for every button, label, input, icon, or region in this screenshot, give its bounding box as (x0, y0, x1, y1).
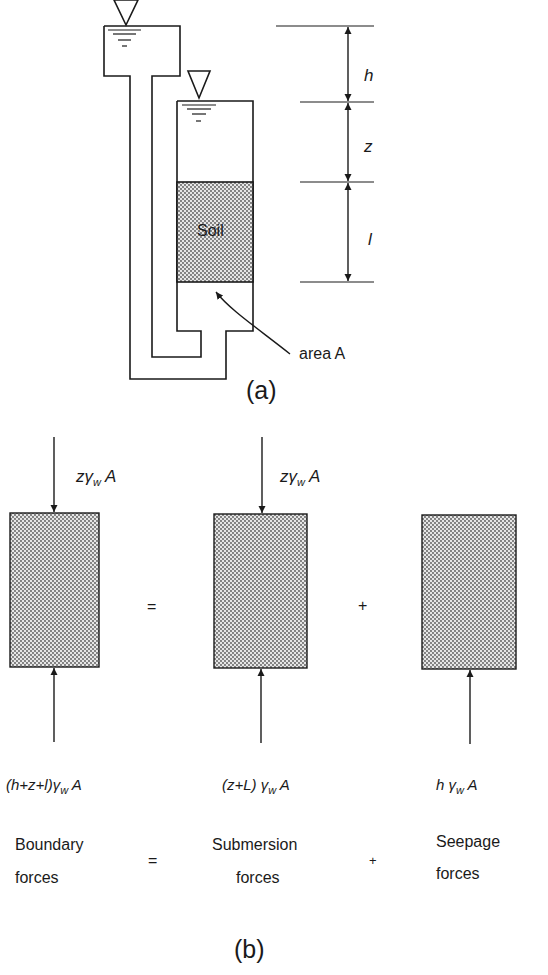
boundary-forces-line1: Boundary (15, 836, 84, 854)
top-force-boundary-sub: w (93, 476, 101, 488)
plus-operator-blocks: + (358, 597, 367, 615)
boundary-forces-line2: forces (15, 869, 59, 887)
top-force-boundary-tail: A (101, 467, 116, 486)
top-force-submersion: zγw A (280, 467, 320, 488)
top-force-boundary-main: zγ (76, 467, 93, 486)
top-force-submersion-tail: A (305, 467, 320, 486)
free-body-block-boundary (10, 513, 99, 667)
bottom-force-boundary-main: (h+z+l)γ (6, 776, 60, 793)
top-force-submersion-sub: w (297, 476, 305, 488)
dimension-label-h: h (364, 66, 373, 86)
seepage-forces-line2: forces (436, 865, 480, 883)
free-body-block-submersion (214, 514, 307, 668)
caption-a: (a) (246, 376, 277, 405)
top-force-submersion-main: zγ (280, 467, 297, 486)
apparatus (104, 26, 253, 379)
top-force-boundary: zγw A (76, 467, 116, 488)
plus-operator-names: + (369, 853, 377, 868)
bottom-force-seepage-tail: A (464, 776, 478, 793)
bottom-force-boundary-sub: w (60, 784, 68, 796)
dimension-lines (276, 26, 374, 282)
water-level-marks-upper (108, 30, 141, 46)
submersion-forces-line2: forces (236, 869, 280, 887)
bottom-force-submersion-tail: A (276, 776, 290, 793)
water-table-triangle-column (188, 71, 210, 98)
bottom-force-boundary-tail: A (68, 776, 82, 793)
seepage-forces-line1: Seepage (436, 833, 500, 851)
bottom-force-boundary: (h+z+l)γw A (6, 776, 82, 796)
equals-operator-names: = (148, 852, 157, 870)
bottom-force-submersion: (z+L) γw A (222, 776, 290, 796)
bottom-force-seepage-main: h γ (436, 776, 456, 793)
submersion-forces-line1: Submersion (212, 836, 297, 854)
dimension-label-z: z (364, 137, 373, 157)
bottom-force-seepage: h γw A (436, 776, 478, 796)
water-table-triangle-upper (114, 0, 138, 25)
bottom-force-seepage-sub: w (456, 784, 464, 796)
equals-operator-blocks: = (147, 598, 156, 616)
water-level-marks-column (182, 105, 216, 121)
dimension-label-l: l (368, 230, 372, 250)
caption-b: (b) (234, 935, 265, 964)
bottom-force-submersion-main: (z+L) γ (222, 776, 268, 793)
soil-label: Soil (197, 222, 224, 240)
area-a-label: area A (299, 345, 345, 363)
free-body-block-seepage (422, 515, 516, 669)
